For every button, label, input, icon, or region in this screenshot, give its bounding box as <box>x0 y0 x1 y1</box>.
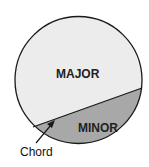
major-label: MAJOR <box>56 67 100 81</box>
circle-segments-diagram: MAJOR MINOR Chord <box>0 0 149 167</box>
minor-label: MINOR <box>78 121 118 135</box>
chord-label: Chord <box>20 145 53 159</box>
